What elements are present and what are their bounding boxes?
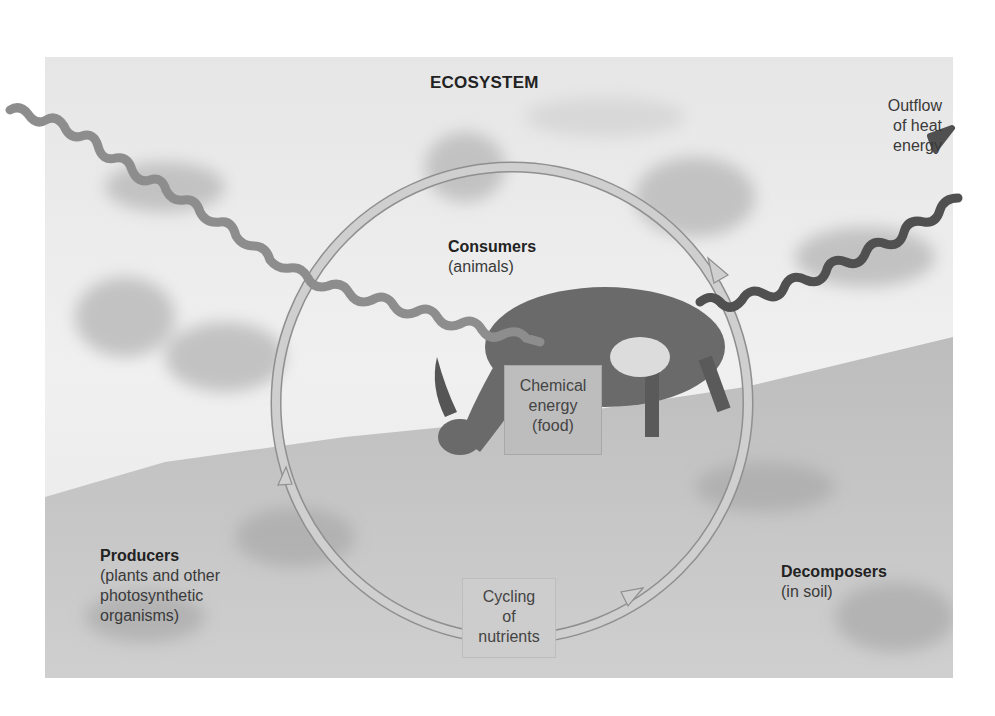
- outflow-label: Outflow of heat energy: [860, 96, 942, 156]
- ecosystem-title: ECOSYSTEM: [430, 73, 539, 93]
- nutrient-cycling-box: Cycling of nutrients: [462, 578, 556, 658]
- nutrient-cycling-line-2: of: [463, 607, 555, 627]
- producers-detail-2: photosynthetic: [100, 586, 220, 606]
- producers-detail-1: (plants and other: [100, 566, 220, 586]
- consumers-name: Consumers: [448, 237, 536, 257]
- decomposers-detail: (in soil): [781, 583, 833, 600]
- producers-label: Producers (plants and other photosynthet…: [100, 546, 220, 626]
- decomposers-label: Decomposers (in soil): [781, 562, 887, 602]
- consumers-detail: (animals): [448, 258, 514, 275]
- nutrient-cycling-line-1: Cycling: [463, 587, 555, 607]
- producers-name: Producers: [100, 546, 220, 566]
- nutrient-cycling-line-3: nutrients: [463, 627, 555, 647]
- consumers-label: Consumers (animals): [448, 237, 536, 277]
- decomposers-name: Decomposers: [781, 562, 887, 582]
- chemical-energy-box: Chemical energy (food): [504, 365, 602, 455]
- producers-detail-3: organisms): [100, 606, 220, 626]
- chemical-energy-line-1: Chemical: [505, 376, 601, 396]
- chemical-energy-line-2: energy: [505, 396, 601, 416]
- outflow-line-3: energy: [860, 136, 942, 156]
- outflow-line-2: of heat: [860, 116, 942, 136]
- chemical-energy-line-3: (food): [505, 416, 601, 436]
- outflow-line-1: Outflow: [860, 96, 942, 116]
